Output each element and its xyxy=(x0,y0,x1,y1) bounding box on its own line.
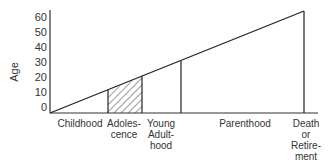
label-young-adulthood: Young Adult- hood xyxy=(143,118,179,151)
age-diagonal xyxy=(50,11,304,113)
label-parenthood: Parenthood xyxy=(210,118,280,129)
label-adolescence: Adoles- cence xyxy=(104,118,144,140)
label-childhood: Childhood xyxy=(55,118,105,129)
label-death-or-retirement: Death or Retire- ment xyxy=(286,118,326,162)
